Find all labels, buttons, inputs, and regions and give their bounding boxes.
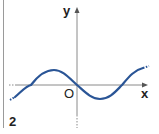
y-axis-arrow-icon	[75, 7, 80, 13]
sine-curve	[15, 68, 143, 99]
curve-dotted-right	[143, 66, 149, 68]
y-axis-label: y	[63, 3, 70, 18]
figure-number: 2	[9, 114, 16, 129]
origin-label: O	[64, 86, 74, 101]
x-axis-label: x	[141, 86, 148, 101]
sine-graph-figure: y x O 2	[0, 0, 159, 134]
graph-canvas	[0, 0, 159, 134]
